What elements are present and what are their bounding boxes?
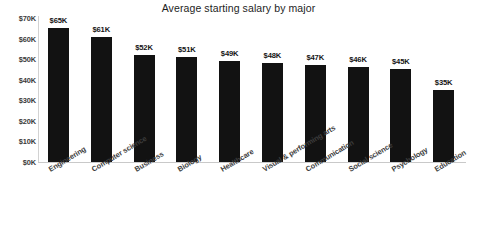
y-tick-label: $10K bbox=[2, 137, 36, 146]
bar-item: $61K bbox=[91, 0, 112, 162]
bar-value-label: $45K bbox=[392, 57, 410, 66]
y-tick-label: $60K bbox=[2, 34, 36, 43]
bar-value-label: $51K bbox=[178, 45, 196, 54]
bar-item: $65K bbox=[48, 0, 69, 162]
bar-value-label: $61K bbox=[92, 25, 110, 34]
bar-value-label: $35K bbox=[435, 78, 453, 87]
bar-item: $49K bbox=[219, 0, 240, 162]
y-tick-label: $20K bbox=[2, 116, 36, 125]
y-tick-label: $30K bbox=[2, 96, 36, 105]
bar bbox=[433, 90, 454, 162]
y-tick-label: $50K bbox=[2, 55, 36, 64]
y-tick-label: $40K bbox=[2, 75, 36, 84]
bar bbox=[176, 57, 197, 162]
bar-value-label: $46K bbox=[349, 55, 367, 64]
bar-item: $35K bbox=[433, 0, 454, 162]
bar bbox=[91, 37, 112, 162]
bar-value-label: $47K bbox=[306, 53, 324, 62]
bar-item: $45K bbox=[390, 0, 411, 162]
bar-value-label: $49K bbox=[221, 49, 239, 58]
bar-value-label: $48K bbox=[264, 51, 282, 60]
bar-value-label: $52K bbox=[135, 43, 153, 52]
bar-value-label: $65K bbox=[50, 16, 68, 25]
y-axis-tick-labels: $70K$60K$50K$40K$30K$20K$10K$0K bbox=[0, 0, 36, 237]
bar-item: $51K bbox=[176, 0, 197, 162]
bar-series: $65K$61K$52K$51K$49K$48K$47K$46K$45K$35K bbox=[38, 0, 466, 162]
bar bbox=[48, 28, 69, 162]
x-axis-category-labels: EngineeringComputer scienceBusinessBiolo… bbox=[38, 164, 466, 237]
y-tick-label: $70K bbox=[2, 14, 36, 23]
y-tick-label: $0K bbox=[2, 158, 36, 167]
bar bbox=[262, 63, 283, 162]
bar-chart: Average starting salary by major $70K$60… bbox=[0, 0, 477, 237]
bar-item: $48K bbox=[262, 0, 283, 162]
bar bbox=[219, 61, 240, 162]
